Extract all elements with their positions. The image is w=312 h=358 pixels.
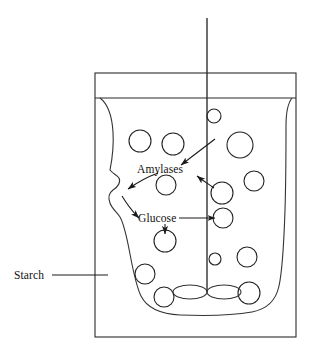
amylases-label: Amylases xyxy=(137,163,184,176)
particle xyxy=(244,171,264,191)
stirrer-blade-right xyxy=(207,285,241,299)
particle xyxy=(227,132,253,158)
particle xyxy=(135,264,155,284)
diagram-canvas: Amylases Glucose Starch xyxy=(0,0,312,358)
glucose-release-arrow xyxy=(122,196,139,218)
amylases-into-starch-arrow xyxy=(128,173,158,189)
amylases-inflow-arrow xyxy=(181,139,215,165)
particle xyxy=(209,253,221,265)
particle xyxy=(207,109,221,123)
glucose-particle xyxy=(213,208,233,228)
particle xyxy=(129,130,151,152)
particle xyxy=(237,247,257,267)
particle xyxy=(154,287,174,307)
stirrer-blade-left xyxy=(173,285,207,299)
glucose-label: Glucose xyxy=(138,212,176,224)
particle xyxy=(156,175,176,195)
beaker-outline xyxy=(95,73,296,337)
particle xyxy=(211,182,233,204)
starch-hydrolysis-diagram: Amylases Glucose Starch xyxy=(0,0,312,358)
particle xyxy=(162,133,184,155)
particle-group xyxy=(129,109,264,307)
starch-label: Starch xyxy=(14,269,44,281)
particle-to-starch-arrow xyxy=(197,176,214,188)
